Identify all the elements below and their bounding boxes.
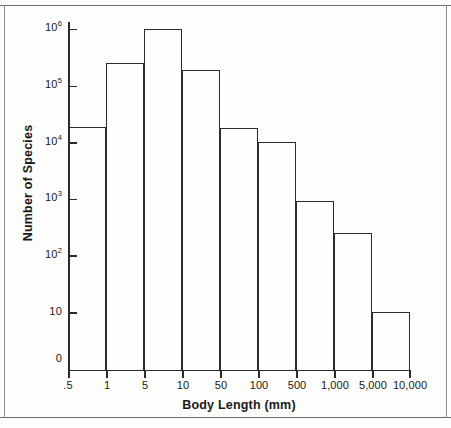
x-tick-10000 xyxy=(409,370,411,378)
y-axis-title: Number of Species xyxy=(21,93,35,273)
y-label-text: 0 xyxy=(56,353,62,364)
x-tick-5 xyxy=(144,370,146,378)
y-label-mantissa: 10 xyxy=(45,21,58,33)
y-label-mantissa: 10 xyxy=(45,191,58,203)
x-axis-label-10: 10 xyxy=(163,379,203,391)
y-label-text: 10 xyxy=(49,306,62,317)
x-tick-0-5 xyxy=(68,370,70,378)
x-axis-label-50: 50 xyxy=(201,379,241,391)
y-tick-1000000 xyxy=(69,29,77,31)
x-tick-50 xyxy=(220,370,222,378)
scanned-page: 106 105 104 103 102 10 0 xyxy=(0,0,451,428)
y-label-exponent: 2 xyxy=(58,246,62,255)
y-label-exponent: 3 xyxy=(58,189,62,198)
x-tick-100 xyxy=(258,370,260,378)
x-tick-1000 xyxy=(334,370,336,378)
y-label-exponent: 6 xyxy=(58,19,62,28)
y-label-mantissa: 10 xyxy=(45,248,58,260)
histogram-bar-8 xyxy=(372,312,410,370)
histogram-bar-1 xyxy=(106,63,144,370)
y-label-exponent: 4 xyxy=(58,133,62,142)
x-axis-label-10000: 10,000 xyxy=(381,379,439,391)
x-axis-label-5: 5 xyxy=(125,379,165,391)
histogram-bar-4 xyxy=(220,128,258,371)
x-tick-500 xyxy=(296,370,298,378)
histogram-bar-0 xyxy=(68,127,106,370)
y-label-mantissa: 10 xyxy=(45,78,58,90)
y-label-mantissa: 10 xyxy=(45,135,58,147)
histogram-bar-7 xyxy=(334,233,372,370)
histogram-bar-2 xyxy=(144,29,182,371)
y-tick-100000 xyxy=(69,86,77,88)
x-tick-1 xyxy=(106,370,108,378)
x-axis-label-0-5: .5 xyxy=(48,379,88,391)
y-label-exponent: 5 xyxy=(58,76,62,85)
histogram-bar-6 xyxy=(296,201,334,370)
histogram-chart: 106 105 104 103 102 10 0 xyxy=(0,0,451,428)
histogram-bar-5 xyxy=(258,142,296,370)
histogram-bar-3 xyxy=(182,70,220,370)
x-axis-label-100: 100 xyxy=(238,379,280,391)
x-axis-label-1: 1 xyxy=(87,379,127,391)
x-tick-5000 xyxy=(372,370,374,378)
x-tick-10 xyxy=(182,370,184,378)
x-axis-title: Body Length (mm) xyxy=(68,398,410,412)
